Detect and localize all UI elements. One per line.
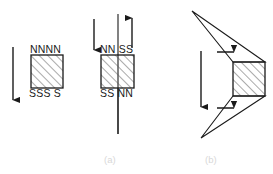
magnet-middle-group [94, 14, 134, 134]
lower-wedge-shape [201, 96, 265, 138]
magnetic-pole-figure: NNNN SSS S NN SS SS NN (a) (b) [0, 0, 273, 174]
magnet-block-left [31, 55, 63, 88]
pole-label-middle-bottom: SS NN [100, 88, 133, 99]
caption-panel-a: (a) [104, 154, 116, 165]
magnet-right-group [192, 11, 265, 138]
magnet-block-middle [101, 55, 134, 88]
pole-label-left-top: NNNN [30, 44, 61, 55]
pole-label-left-bottom: SSS S [29, 88, 61, 99]
pole-label-middle-top: NN SS [100, 44, 133, 55]
magnet-block-right [233, 62, 265, 96]
caption-panel-b: (b) [205, 154, 217, 165]
upper-wedge-shape [192, 11, 265, 62]
